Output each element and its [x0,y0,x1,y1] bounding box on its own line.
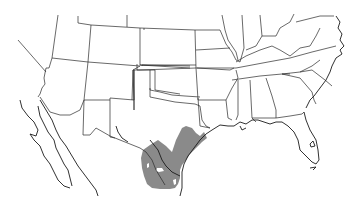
range-area [141,126,207,189]
range-map [0,0,359,201]
coastlines [20,16,344,196]
